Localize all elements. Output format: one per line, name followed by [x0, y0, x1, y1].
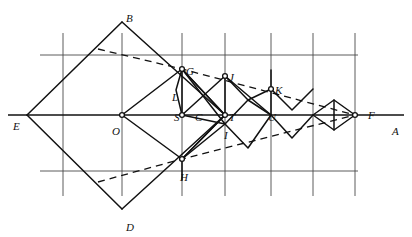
point-label-D: D — [126, 222, 134, 233]
point-label-F: F — [368, 110, 375, 121]
point-label-A: A — [392, 126, 399, 137]
vertex-marker-K — [269, 87, 274, 92]
vertex-marker-G — [180, 67, 185, 72]
point-label-G: G — [186, 66, 194, 77]
point-markers — [120, 67, 358, 162]
vertex-marker-J — [223, 74, 228, 79]
point-label-B: B — [126, 13, 133, 24]
big-rhombus-EBAD-left-upper — [27, 22, 122, 115]
vertex-marker-F — [353, 113, 358, 118]
envelope-upper-B-to-F — [98, 49, 355, 115]
point-label-T: T — [229, 112, 235, 123]
geometry-diagram — [0, 0, 412, 237]
figure-canvas: BGJKFEOSCTUALIHD — [0, 0, 412, 237]
point-label-L: L — [172, 92, 178, 103]
point-label-I: I — [224, 130, 228, 141]
point-label-C: C — [195, 112, 202, 123]
point-label-O: O — [112, 126, 120, 137]
ray-H-to-T — [182, 115, 225, 159]
point-label-E: E — [13, 121, 20, 132]
point-label-S: S — [174, 112, 180, 123]
big-rhombus-lower-left — [27, 115, 122, 209]
vertex-marker-T — [223, 113, 228, 118]
point-label-H: H — [180, 172, 188, 183]
point-label-J: J — [229, 72, 234, 83]
vertex-marker-H — [180, 157, 185, 162]
point-label-K: K — [275, 85, 282, 96]
vertex-marker-O — [120, 113, 125, 118]
point-label-U: U — [268, 112, 276, 123]
vertex-marker-S — [180, 113, 185, 118]
